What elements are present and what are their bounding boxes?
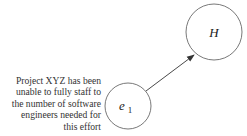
- node-e1-description: Project XYZ has been unable to fully sta…: [0, 75, 101, 132]
- node-h-label: H: [208, 25, 219, 40]
- node-e1-subscript: 1: [128, 105, 133, 115]
- node-e1: e 1: [105, 83, 151, 129]
- description-line: this effort: [0, 121, 101, 132]
- description-line: unable to fully staff to: [0, 86, 101, 97]
- description-line: the number of software: [0, 98, 101, 109]
- description-line: engineers needed for: [0, 109, 101, 120]
- node-e1-label: e: [119, 98, 125, 113]
- edge-e1-to-h: [146, 55, 194, 91]
- node-h: H: [186, 4, 242, 60]
- description-line: Project XYZ has been: [0, 75, 101, 86]
